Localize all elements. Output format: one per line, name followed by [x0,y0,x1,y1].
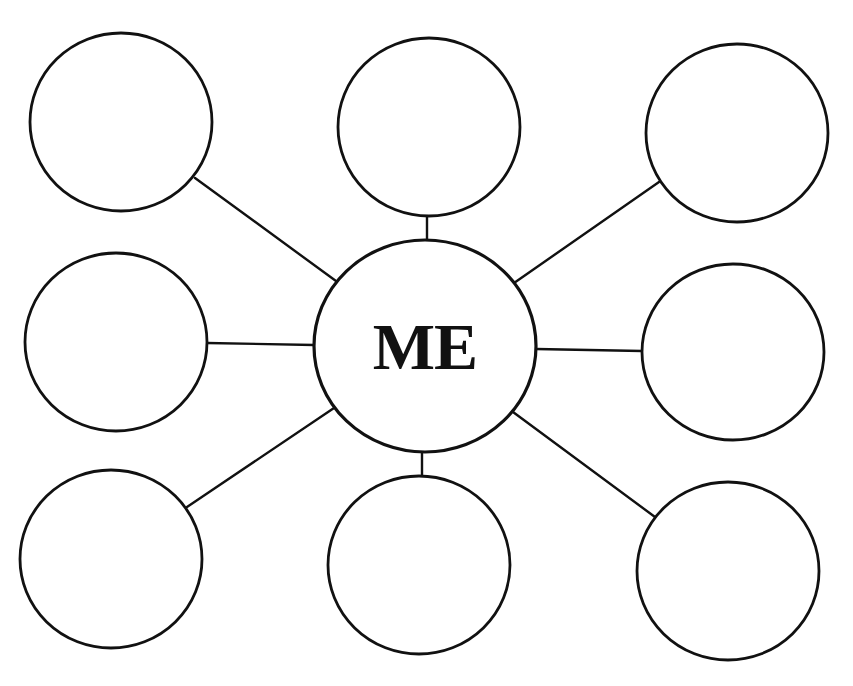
connector-line-bottom-left [187,408,334,507]
connector-line-bottom-right [513,412,655,517]
center-node [314,240,536,452]
node-label-middle-right[interactable] [642,264,824,440]
node-label-bottom-middle[interactable] [328,476,510,654]
connector-line-middle-left [207,343,314,345]
node-label-bottom-left[interactable] [20,470,202,648]
connector-line-top-right [514,182,659,283]
connector-line-middle-right [536,349,642,351]
node-label-top-middle[interactable] [338,38,520,216]
node-label-top-right[interactable] [646,44,828,222]
node-label-top-left[interactable] [30,33,212,211]
node-label-middle-left[interactable] [25,253,207,431]
node-label-bottom-right[interactable] [637,482,819,660]
connector-line-top-left [195,178,336,281]
